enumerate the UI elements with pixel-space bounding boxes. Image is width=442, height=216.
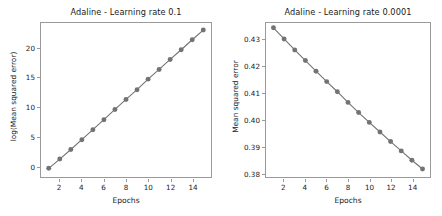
data-point-marker: [157, 67, 162, 72]
data-point-marker: [179, 47, 184, 52]
data-point-marker: [90, 127, 95, 132]
data-point-marker: [346, 100, 351, 105]
y-tick-mark: [262, 147, 265, 148]
data-point-marker: [79, 137, 84, 142]
series-plot-left: [41, 23, 211, 177]
series-plot-right: [266, 23, 430, 177]
data-point-marker: [201, 28, 206, 33]
x-tick-mark: [81, 179, 82, 182]
x-tick-label: 2: [57, 183, 62, 192]
y-tick-label: 0.43: [223, 35, 260, 44]
y-tick-label: 5: [0, 132, 35, 141]
y-tick-label: 0.39: [223, 142, 260, 151]
data-point-marker: [356, 110, 361, 115]
data-point-marker: [124, 97, 129, 102]
plot-area-right: [265, 22, 431, 178]
y-tick-mark: [262, 39, 265, 40]
x-tick-mark: [59, 179, 60, 182]
data-point-marker: [314, 69, 319, 74]
x-axis-label-right: Epochs: [265, 196, 431, 205]
x-tick-label: 6: [101, 183, 106, 192]
data-point-marker: [420, 167, 425, 172]
x-tick-mark: [171, 179, 172, 182]
data-point-marker: [377, 130, 382, 135]
y-tick-mark: [37, 107, 40, 108]
data-point-marker: [146, 77, 151, 82]
x-tick-label: 12: [387, 183, 396, 192]
chart-panel-left: Adaline - Learning rate 0.1 log(Mean squ…: [0, 0, 221, 216]
x-tick-label: 14: [188, 183, 197, 192]
y-tick-label: 0.42: [223, 61, 260, 70]
y-tick-mark: [37, 48, 40, 49]
data-point-marker: [101, 117, 106, 122]
plot-area-left: [40, 22, 212, 178]
x-tick-mark: [326, 179, 327, 182]
data-point-marker: [271, 25, 276, 30]
x-tick-label: 4: [303, 183, 308, 192]
y-tick-label: 20: [0, 43, 35, 52]
figure-canvas: Adaline - Learning rate 0.1 log(Mean squ…: [0, 0, 442, 216]
y-tick-label: 0.38: [223, 169, 260, 178]
data-point-marker: [57, 157, 62, 162]
data-point-marker: [399, 148, 404, 153]
y-tick-mark: [37, 77, 40, 78]
y-tick-label: 0.41: [223, 88, 260, 97]
x-tick-label: 6: [324, 183, 329, 192]
data-point-marker: [409, 158, 414, 163]
x-tick-label: 12: [166, 183, 175, 192]
x-tick-label: 10: [144, 183, 153, 192]
x-tick-mark: [391, 179, 392, 182]
x-tick-label: 8: [124, 183, 129, 192]
chart-title-right: Adaline - Learning rate 0.0001: [265, 7, 431, 17]
y-tick-mark: [262, 66, 265, 67]
x-tick-label: 2: [281, 183, 286, 192]
data-point-marker: [46, 166, 51, 171]
data-point-marker: [168, 57, 173, 62]
x-tick-label: 4: [79, 183, 84, 192]
x-tick-mark: [193, 179, 194, 182]
y-tick-mark: [262, 120, 265, 121]
y-tick-mark: [37, 167, 40, 168]
x-tick-mark: [126, 179, 127, 182]
y-tick-mark: [262, 93, 265, 94]
x-tick-label: 10: [365, 183, 374, 192]
y-tick-mark: [262, 174, 265, 175]
data-point-marker: [282, 37, 287, 42]
data-point-marker: [68, 147, 73, 152]
x-tick-mark: [305, 179, 306, 182]
data-point-marker: [303, 58, 308, 63]
y-tick-label: 0.40: [223, 115, 260, 124]
data-point-marker: [135, 87, 140, 92]
x-tick-mark: [370, 179, 371, 182]
x-tick-mark: [148, 179, 149, 182]
x-tick-mark: [283, 179, 284, 182]
y-tick-mark: [37, 137, 40, 138]
y-tick-label: 0: [0, 162, 35, 171]
data-point-marker: [324, 79, 329, 84]
data-point-marker: [335, 89, 340, 94]
y-tick-label: 10: [0, 103, 35, 112]
x-tick-label: 8: [346, 183, 351, 192]
chart-title-left: Adaline - Learning rate 0.1: [40, 7, 212, 17]
data-point-marker: [292, 47, 297, 52]
x-tick-mark: [348, 179, 349, 182]
x-tick-label: 14: [408, 183, 417, 192]
y-tick-label: 15: [0, 73, 35, 82]
data-point-marker: [367, 120, 372, 125]
x-axis-label-left: Epochs: [40, 196, 212, 205]
data-point-marker: [388, 139, 393, 144]
x-tick-mark: [413, 179, 414, 182]
data-point-marker: [190, 37, 195, 42]
x-tick-mark: [104, 179, 105, 182]
data-point-marker: [112, 107, 117, 112]
